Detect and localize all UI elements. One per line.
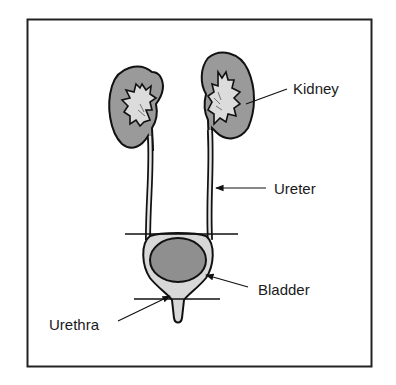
right-ureter xyxy=(209,130,210,240)
urinary-system-diagram: Kidney Ureter Bladder Urethra xyxy=(0,0,396,385)
urethra-label: Urethra xyxy=(49,316,100,333)
left-kidney xyxy=(109,67,163,150)
bladder-leader-line xyxy=(206,275,248,287)
bladder xyxy=(143,233,213,323)
left-ureter xyxy=(148,136,151,240)
bladder-label: Bladder xyxy=(258,281,310,298)
diagram-frame xyxy=(28,20,372,367)
kidney-label: Kidney xyxy=(293,80,339,97)
ureter-label: Ureter xyxy=(274,180,316,197)
